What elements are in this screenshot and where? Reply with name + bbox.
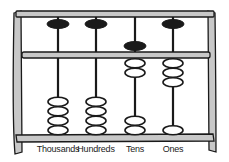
thousands-earth-bead[interactable] (48, 126, 68, 135)
hundreds-earth-bead[interactable] (86, 107, 106, 116)
abacus-diagram (0, 0, 229, 162)
thousands-earth-bead[interactable] (48, 107, 68, 116)
tens-earth-bead[interactable] (125, 126, 145, 135)
thousands-heaven-bead[interactable] (47, 20, 69, 29)
ones-heaven-bead[interactable] (162, 20, 184, 29)
reckoning-bar (22, 52, 210, 58)
frame-top-rail (16, 11, 214, 17)
ones-earth-bead[interactable] (163, 126, 183, 135)
tens-earth-bead[interactable] (125, 116, 145, 125)
hundreds-earth-bead[interactable] (86, 97, 106, 106)
column-label-hundreds: Hundreds (77, 144, 114, 154)
thousands-earth-bead[interactable] (48, 116, 68, 125)
frame-right-post (208, 11, 216, 152)
tens-heaven-bead[interactable] (124, 42, 146, 51)
frame-left-post (13, 11, 22, 154)
column-label-thousands: Thousands (37, 144, 80, 154)
hundreds-earth-bead[interactable] (86, 126, 106, 135)
frame-bottom-rail (16, 134, 214, 142)
hundreds-heaven-bead[interactable] (85, 20, 107, 29)
tens-earth-bead[interactable] (125, 59, 145, 68)
thousands-earth-bead[interactable] (48, 97, 68, 106)
column-label-ones: Ones (163, 144, 184, 154)
ones-earth-bead[interactable] (163, 59, 183, 68)
ones-earth-bead[interactable] (163, 68, 183, 77)
abacus-frame (13, 11, 216, 154)
tens-earth-bead[interactable] (125, 68, 145, 77)
ones-earth-bead[interactable] (163, 78, 183, 87)
hundreds-earth-bead[interactable] (86, 116, 106, 125)
column-label-tens: Tens (126, 144, 144, 154)
